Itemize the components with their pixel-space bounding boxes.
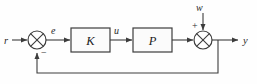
signal-label-output: y [242, 35, 248, 46]
junction-output-sum [194, 31, 212, 49]
block-diagram-canvas: K P r e u w y − + [0, 0, 257, 84]
signal-label-control: u [114, 25, 119, 36]
plant-block-label: P [148, 34, 157, 48]
sign-label-disturbance-positive: + [192, 20, 198, 31]
signal-label-error: e [51, 25, 56, 36]
wire-feedback-path [37, 40, 218, 73]
controller-block-label: K [85, 34, 95, 48]
sign-label-feedback-negative: − [41, 47, 47, 58]
block-plant: P [133, 28, 172, 52]
signal-label-reference: r [4, 35, 9, 46]
signal-label-disturbance: w [196, 2, 203, 13]
block-controller: K [71, 28, 110, 52]
block-diagram-figure: K P r e u w y − + [0, 0, 257, 84]
